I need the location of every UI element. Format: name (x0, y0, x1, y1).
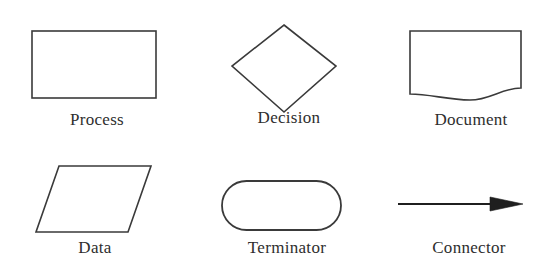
flowchart-shapes-diagram: Process Decision Document Data Terminato… (0, 0, 548, 275)
shape-cell-decision: Decision (190, 14, 380, 134)
shape-cell-process: Process (0, 14, 190, 134)
shape-cell-connector: Connector (378, 152, 548, 272)
shape-label-process: Process (0, 110, 192, 130)
shape-label-document: Document (378, 110, 548, 130)
shape-label-data: Data (0, 238, 190, 258)
shape-label-connector: Connector (378, 238, 548, 258)
shape-label-decision: Decision (190, 108, 384, 128)
shape-label-terminator: Terminator (190, 238, 382, 258)
shape-cell-terminator: Terminator (190, 152, 380, 272)
shape-cell-document: Document (378, 14, 548, 134)
shape-cell-data: Data (0, 152, 190, 272)
